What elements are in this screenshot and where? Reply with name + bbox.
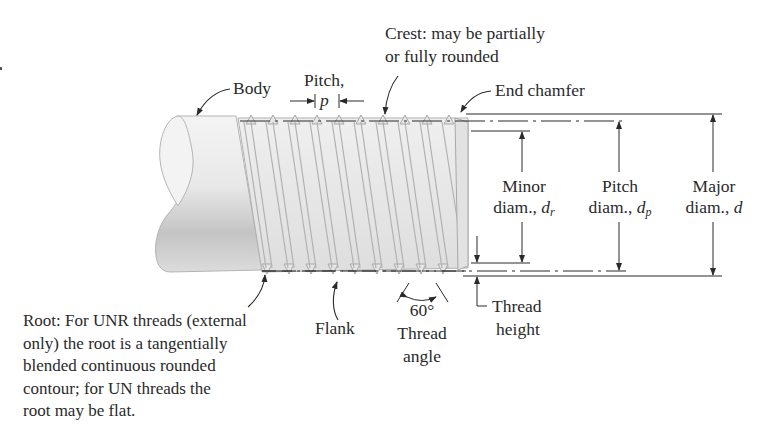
pitch-diam-line2: diam., dp [580, 197, 660, 223]
minor-diam-subscript: r [550, 205, 555, 219]
thread-angle-label: 60° Thread angle [388, 299, 456, 368]
body-label: Body [233, 78, 271, 99]
root-description: Root: For UNR threads (external only) th… [23, 310, 247, 423]
pitch-diam-text: diam., [589, 197, 637, 217]
pitch-label: Pitch, [304, 70, 344, 91]
root-line-2: only) the root is a tangentially [23, 333, 247, 356]
thread-angle-value: 60° [388, 299, 456, 322]
major-diam-label: Major diam., d [676, 176, 752, 218]
thread-terminology-diagram: Crest: may be partially or fully rounded… [0, 0, 764, 434]
major-diam-line1: Major [676, 176, 752, 197]
major-diam-symbol: d [734, 197, 743, 217]
major-diam-text: diam., [686, 197, 734, 217]
pitch-diam-line1: Pitch [580, 176, 660, 197]
major-diam-line2: diam., d [676, 197, 752, 218]
threaded-section [238, 115, 468, 274]
thread-height-line1: Thread [492, 295, 542, 318]
thread-angle-line2: angle [388, 345, 456, 368]
minor-diam-line2: diam., dr [488, 197, 560, 223]
thread-angle-line1: Thread [388, 322, 456, 345]
root-line-5: root may be flat. [23, 400, 247, 423]
flank-label: Flank [315, 318, 355, 339]
minor-diam-text: diam., [493, 197, 541, 217]
end-chamfer-label: End chamfer [495, 80, 585, 101]
pitch-diam-label: Pitch diam., dp [580, 176, 660, 223]
root-line-3: blended continuous rounded [23, 355, 247, 378]
minor-diam-label: Minor diam., dr [488, 176, 560, 223]
pitch-symbol: p [320, 90, 329, 111]
crest-label-line2: or fully rounded [385, 46, 499, 67]
edge-mark [0, 67, 2, 70]
crest-label-line1: Crest: may be partially [385, 23, 545, 44]
thread-height-label: Thread height [492, 295, 542, 341]
minor-diam-symbol: d [541, 197, 550, 217]
thread-height-line2: height [492, 318, 542, 341]
pitch-diam-subscript: p [645, 205, 651, 219]
minor-diam-line1: Minor [488, 176, 560, 197]
root-line-4: contour; for UN threads the [23, 378, 247, 401]
root-line-1: Root: For UNR threads (external [23, 310, 247, 333]
